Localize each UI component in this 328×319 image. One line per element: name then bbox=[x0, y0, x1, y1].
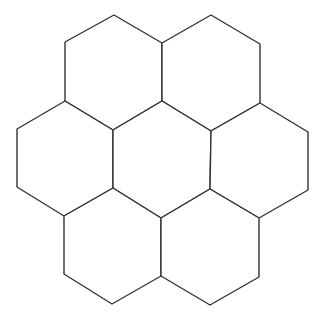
honeycomb-diagram bbox=[0, 0, 328, 319]
